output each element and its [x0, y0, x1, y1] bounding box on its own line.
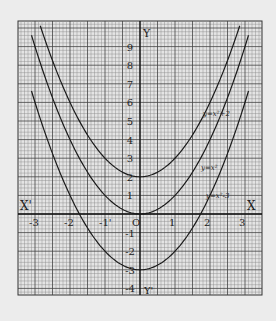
y-axis-label: Y [142, 27, 151, 40]
x-tick-label: -3 [29, 217, 39, 228]
y-tick-label: 5 [127, 116, 133, 127]
parabola-graph: X X' Y Y' -3-2-1'O123987654321-1-2-3-4 y… [0, 0, 276, 321]
y-tick-label: -1 [125, 228, 135, 239]
x-axis-neg-label: X' [20, 199, 32, 213]
x-tick-label: -1' [99, 217, 112, 228]
y-tick-label: 6 [127, 97, 133, 108]
y-tick-label: -2 [125, 246, 135, 257]
y-axis-neg-label: Y' [143, 285, 153, 296]
x-tick-label: 1 [169, 217, 175, 228]
curve-label: y=x²+2 [202, 110, 230, 118]
x-tick-label: 2 [204, 217, 210, 228]
curve-label: y=x² [200, 164, 218, 172]
y-tick-label: -4 [125, 283, 135, 294]
x-tick-label: O [132, 217, 140, 228]
curve-label: y=x²-3 [205, 192, 230, 200]
x-axis-label: X [247, 199, 256, 213]
y-tick-label: 1 [127, 190, 133, 201]
y-tick-label: -3 [125, 265, 135, 276]
y-tick-label: 4 [127, 135, 133, 146]
y-tick-label: 2 [127, 172, 133, 183]
x-tick-label: -2 [64, 217, 74, 228]
x-tick-label: 3 [239, 217, 245, 228]
y-tick-label: 9 [127, 42, 133, 53]
y-tick-label: 7 [127, 79, 133, 90]
y-tick-label: 8 [127, 60, 133, 71]
y-tick-label: 3 [127, 153, 133, 164]
